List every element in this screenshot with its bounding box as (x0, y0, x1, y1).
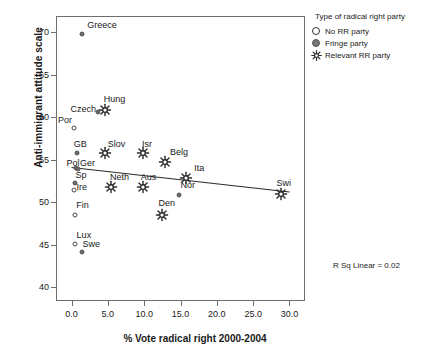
marker-filled-circle (80, 250, 85, 255)
legend-key-filled-circle-icon (310, 37, 322, 49)
point-label-aus: Aus (141, 172, 157, 182)
point-label-swi: Swi (276, 178, 291, 188)
legend-item-fringe-party[interactable]: Fringe party (310, 37, 418, 49)
data-point-swi[interactable] (274, 187, 287, 200)
data-point-por[interactable] (71, 126, 76, 131)
data-point-belg[interactable] (159, 156, 172, 169)
data-point-lux[interactable] (73, 241, 78, 246)
x-axis-tick (217, 300, 218, 306)
data-point-swe[interactable] (80, 250, 85, 255)
y-axis-tick (51, 75, 57, 76)
legend: Type of radical right party No RR partyF… (310, 12, 418, 61)
data-point-gb[interactable] (75, 150, 80, 155)
y-axis-tick (51, 117, 57, 118)
x-axis-tick-label: 5.0 (102, 309, 115, 319)
point-label-ire: Ire (76, 182, 87, 192)
x-axis-tick (253, 300, 254, 306)
data-point-czech[interactable] (95, 110, 100, 115)
point-label-ita: Ita (194, 163, 204, 173)
point-label-hung: Hung (104, 94, 126, 104)
data-point-fin[interactable] (73, 213, 78, 218)
x-axis-tick-label: 15.0 (172, 309, 190, 319)
point-label-slov: Slov (108, 139, 126, 149)
legend-label: Relevant RR party (325, 51, 390, 60)
legend-item-relevant-rr-party[interactable]: Relevant RR party (310, 49, 418, 61)
point-label-isr: Isr (142, 139, 152, 149)
plot-area: 404550556065700.05.010.015.020.025.030.0… (57, 17, 304, 300)
point-label-swe: Swe (82, 239, 100, 249)
point-label-nor: Nor (180, 180, 195, 190)
data-point-den[interactable] (155, 209, 168, 222)
y-axis-tick-label: 60 (39, 112, 49, 122)
data-point-nor[interactable] (177, 193, 182, 198)
x-axis-tick-label: 20.0 (208, 309, 226, 319)
x-axis-tick-label: 30.0 (281, 309, 299, 319)
x-axis-tick-label: 10.0 (135, 309, 153, 319)
legend-rows: No RR partyFringe partyRelevant RR party (310, 25, 418, 61)
data-point-hung[interactable] (98, 104, 111, 117)
legend-key-open-circle-icon (310, 25, 322, 37)
x-axis-tick-label: 0.0 (65, 309, 78, 319)
point-label-den: Den (158, 198, 175, 208)
point-label-sp: Sp (75, 170, 86, 180)
x-axis-tick (108, 300, 109, 306)
x-axis-title: % Vote radical right 2000-2004 (45, 333, 345, 344)
y-axis-tick (51, 160, 57, 161)
data-point-neth[interactable] (104, 180, 117, 193)
x-axis-tick (181, 300, 182, 306)
marker-filled-circle (75, 150, 80, 155)
marker-filled-circle (95, 110, 100, 115)
point-label-ger: Ger (80, 158, 95, 168)
y-axis-tick (51, 287, 57, 288)
x-axis-tick (72, 300, 73, 306)
point-label-czech: Czech (70, 104, 96, 114)
y-axis-tick-label: 40 (39, 282, 49, 292)
point-label-por: Por (58, 115, 72, 125)
marker-open-circle (71, 126, 76, 131)
x-axis-tick (289, 300, 290, 306)
data-point-aus[interactable] (137, 180, 150, 193)
marker-filled-circle (177, 193, 182, 198)
y-axis-tick-label: 55 (39, 155, 49, 165)
scatter-plot-figure: Anti-immigrant attitude scale 4045505560… (0, 0, 421, 357)
marker-open-circle (73, 213, 78, 218)
plot-frame: 404550556065700.05.010.015.020.025.030.0… (56, 16, 305, 301)
data-point-greece[interactable] (80, 31, 85, 36)
y-axis-tick-label: 70 (39, 27, 49, 37)
marker-open-circle (73, 241, 78, 246)
y-axis-tick (51, 202, 57, 203)
r-squared-annotation: R Sq Linear = 0.02 (333, 261, 400, 270)
legend-label: No RR party (325, 27, 369, 36)
point-label-fin: Fin (76, 200, 89, 210)
x-axis-tick-label: 25.0 (244, 309, 262, 319)
y-axis-tick-label: 45 (39, 240, 49, 250)
legend-key-star-icon (310, 49, 322, 61)
point-label-belg: Belg (170, 147, 188, 157)
x-axis-tick (144, 300, 145, 306)
y-axis-tick (51, 32, 57, 33)
marker-filled-circle (80, 31, 85, 36)
y-axis-tick (51, 245, 57, 246)
point-label-gb: GB (74, 139, 87, 149)
point-label-neth: Neth (110, 172, 129, 182)
legend-title: Type of radical right party (310, 12, 410, 22)
legend-label: Fringe party (325, 39, 368, 48)
y-axis-tick-label: 65 (39, 70, 49, 80)
point-label-greece: Greece (87, 20, 117, 30)
legend-item-no-rr-party[interactable]: No RR party (310, 25, 418, 37)
y-axis-tick-label: 50 (39, 197, 49, 207)
